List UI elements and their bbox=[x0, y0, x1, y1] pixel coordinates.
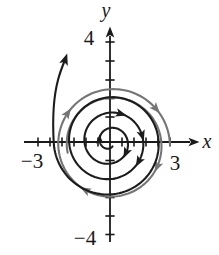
y-max-tick-label: 4 bbox=[84, 28, 95, 49]
y-min-tick-label: −4 bbox=[74, 228, 96, 249]
phase-portrait-figure: y 4 −4 x −3 3 bbox=[0, 0, 219, 255]
x-axis-label: x bbox=[203, 131, 212, 151]
phase-plot-canvas bbox=[0, 0, 219, 255]
y-axis-arrow-icon bbox=[106, 27, 115, 38]
x-axis-arrow-icon bbox=[189, 138, 200, 147]
x-max-tick-label: 3 bbox=[170, 153, 181, 174]
y-axis-label: y bbox=[102, 0, 111, 20]
gray-trajectory-arrowhead bbox=[61, 108, 71, 120]
x-min-tick-label: −3 bbox=[21, 151, 43, 172]
